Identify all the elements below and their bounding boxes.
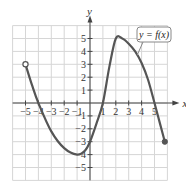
y-axis-label: y — [86, 5, 92, 17]
x-tick-label: −5 — [20, 106, 31, 117]
y-tick-label: 1 — [81, 85, 86, 96]
function-curve — [26, 36, 165, 154]
x-axis-label: x — [181, 97, 186, 109]
x-tick-label: −3 — [46, 106, 57, 117]
y-tick-label: 4 — [81, 46, 86, 57]
function-graph: −5−4−3−2−11234554321−1−2−3−4−5 y = f(x) … — [0, 0, 186, 193]
x-tick-label: 3 — [126, 106, 131, 117]
closed-endpoint-marker — [162, 139, 167, 144]
x-tick-label: 2 — [113, 106, 118, 117]
y-tick-label: −2 — [75, 123, 86, 134]
y-tick-label: 3 — [81, 59, 86, 70]
y-tick-label: 5 — [81, 33, 86, 44]
y-tick-label: −1 — [75, 110, 86, 121]
x-tick-label: 4 — [139, 106, 144, 117]
y-tick-label: −3 — [75, 136, 86, 147]
function-label-text: y = f(x) — [138, 29, 170, 41]
x-tick-label: −2 — [59, 106, 70, 117]
open-endpoint-marker — [23, 62, 28, 67]
y-tick-label: 2 — [81, 72, 86, 83]
y-tick-label: −5 — [75, 162, 86, 173]
